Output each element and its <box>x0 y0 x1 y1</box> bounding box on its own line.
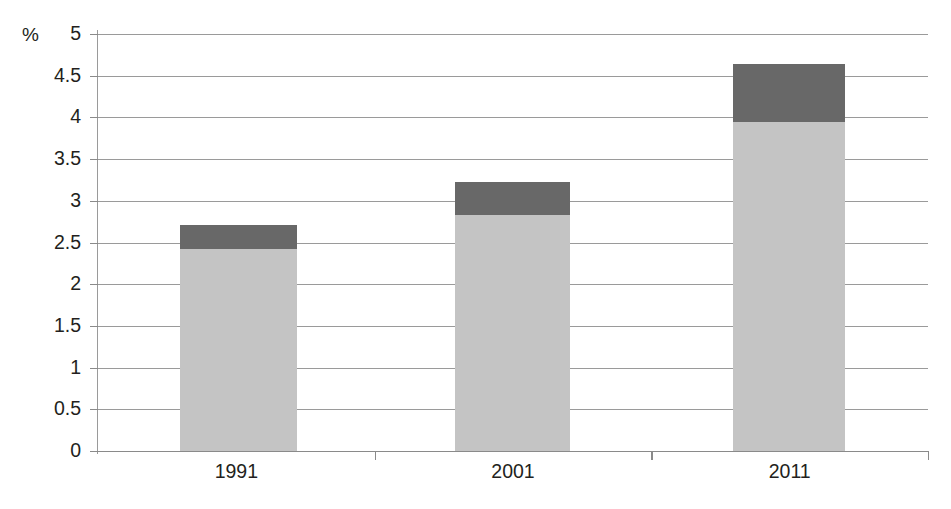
x-tick-mark <box>651 451 652 460</box>
y-tick-label: 5 <box>0 24 81 44</box>
y-tick-label: 2 <box>0 274 81 294</box>
x-axis-label-1991: 1991 <box>176 460 296 482</box>
y-tick-label: 2.5 <box>0 233 81 253</box>
y-tick-label: 0 <box>0 441 81 461</box>
y-tick-label: 4 <box>0 108 81 128</box>
y-tick-label: 1.5 <box>0 316 81 336</box>
bar-group-1991 <box>180 34 297 451</box>
gridline <box>98 451 928 452</box>
y-tick-label: 1 <box>0 358 81 378</box>
x-axis-label-2001: 2001 <box>453 460 573 482</box>
bar-group-2001 <box>455 34 570 451</box>
bar-segment-lower-segment-1991 <box>180 249 297 451</box>
x-tick-mark <box>375 451 376 460</box>
y-tick-label: 3.5 <box>0 149 81 169</box>
bar-group-2011 <box>733 34 845 451</box>
stacked-bar-chart: % 00.511.522.533.544.55 199120012011 <box>0 0 951 509</box>
bar-segment-upper-segment-2001 <box>455 182 570 215</box>
plot-area <box>98 34 928 451</box>
bar-segment-lower-segment-2011 <box>733 122 845 451</box>
y-tick-label: 3 <box>0 191 81 211</box>
bar-segment-lower-segment-2001 <box>455 215 570 451</box>
y-tick-label: 0.5 <box>0 400 81 420</box>
y-tick-label: 4.5 <box>0 66 81 86</box>
x-tick-mark <box>928 451 929 460</box>
bar-segment-upper-segment-2011 <box>733 64 845 122</box>
x-axis-label-2011: 2011 <box>730 460 850 482</box>
bar-segment-upper-segment-1991 <box>180 225 297 249</box>
